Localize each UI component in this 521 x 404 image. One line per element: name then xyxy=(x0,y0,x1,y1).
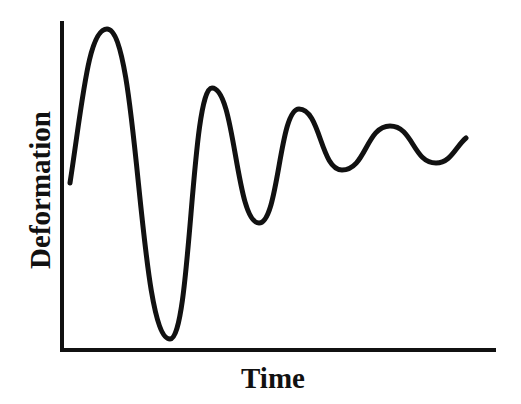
y-axis-label: Deformation xyxy=(24,111,57,269)
deformation-curve xyxy=(70,29,466,339)
x-axis-label: Time xyxy=(241,362,305,395)
damped-oscillation-chart xyxy=(0,0,521,404)
